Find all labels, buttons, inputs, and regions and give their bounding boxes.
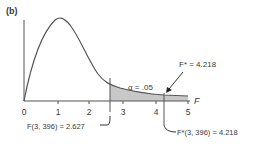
observed-value-label: F*(3, 396) = 4.218 <box>177 128 238 137</box>
alpha-label: α = .05 <box>128 83 153 92</box>
panel-label: (b) <box>6 6 18 16</box>
svg-text:4: 4 <box>154 107 159 117</box>
arrow-head-icon <box>166 87 172 93</box>
svg-text:2: 2 <box>87 107 92 117</box>
f-distribution-chart: (b) 0 1 2 3 4 5 F α = .05 F* = 4.218 F(3… <box>0 0 253 146</box>
critical-value-label: F(3, 396) = 2.627 <box>27 122 85 131</box>
f-star-callout: F* = 4.218 <box>179 60 217 69</box>
svg-text:0: 0 <box>22 107 27 117</box>
density-curve <box>24 18 188 101</box>
critical-label-hook <box>100 116 110 125</box>
x-tick-labels: 0 1 2 3 4 5 <box>22 107 191 117</box>
svg-text:3: 3 <box>121 107 126 117</box>
f-star-arrow <box>169 72 183 89</box>
x-axis-label: F <box>194 96 200 106</box>
svg-text:1: 1 <box>56 107 61 117</box>
observed-label-hook <box>164 125 176 132</box>
svg-text:5: 5 <box>186 107 191 117</box>
